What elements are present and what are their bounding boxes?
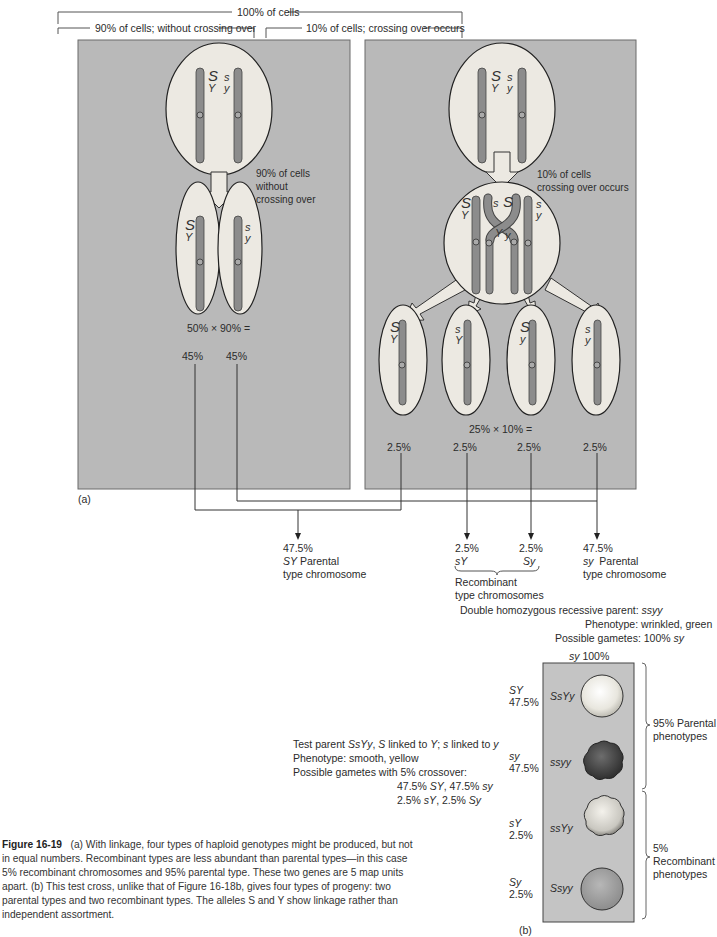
test-parent-line: Test parent SsYy, S linked to Y; s linke… [293,738,499,751]
percent-Sy-crossover: 2.5% [517,441,541,454]
arrow-head-icon [464,533,470,540]
percent-sY-crossover: 2.5% [453,441,477,454]
allele-label: S [503,195,513,209]
progeny-genotype-SsYy: SsYy [550,690,575,703]
allele-label: s Y [455,324,462,346]
recombinant-label: Recombinant type chromosomes [455,576,544,602]
panel-b-label: (b) [519,924,532,937]
progeny-gamete-sy: sy 47.5% [509,750,539,774]
allele-label: S Y [461,196,471,221]
bracket-label-no-crossover: 90% of cells; without crossing over [95,22,256,35]
arrow-head-icon [528,533,534,540]
panel-a-label: (a) [78,493,91,506]
note-no-crossover: 90% of cells without crossing over [256,167,315,206]
allele-label: s y [585,324,591,346]
test-parent-phenotype: Phenotype: smooth, yellow [293,752,419,765]
double-recessive-parent: Double homozygous recessive parent: ssyy [460,604,663,617]
allele-label: S Y [208,69,218,94]
total-sY: 2.5% sY [455,542,479,568]
arrow-head-icon [295,533,301,540]
figure-caption: Figure 16-19 (a) With linkage, four type… [2,838,422,922]
allele-label: s [493,198,499,209]
progeny-gamete-SY: SY 47.5% [509,684,539,708]
allele-label: s y [224,72,230,94]
double-recessive-gametes: Possible gametes: 100% sy [555,632,684,645]
progeny-genotype-ssyy: ssyy [550,756,571,769]
note-crossover: 10% of cells crossing over occurs [537,168,629,194]
arrow-head-icon [594,533,600,540]
allele-label: S Y [390,320,400,345]
percent-SY-crossover: 2.5% [387,441,411,454]
double-recessive-phenotype: Phenotype: wrinkled, green [585,618,712,631]
gamete-cell-sy-right [572,305,620,415]
allele-label: Y [495,228,502,239]
plate-header: sy 100% [569,650,609,663]
progeny-genotype-Ssyy: Ssyy [550,882,573,895]
gamete-cell-SY-left [176,182,220,314]
total-Sy: 2.5% Sy [519,542,543,568]
brace-recombinant [642,791,650,919]
caption-text: (a) With linkage, four types of haploid … [2,839,413,920]
allele-label: S y [520,320,530,345]
progeny-gamete-Sy: Sy 2.5% [509,876,533,900]
seed-smooth-yellow [581,675,623,717]
brace-parental [642,663,650,789]
allele-label: S Y [185,218,195,243]
calculation-crossover: 25% × 10% = [469,423,532,436]
seed-wrinkled-yellow [584,796,624,836]
percent-sy-crossover: 2.5% [583,441,607,454]
allele-label: y [505,230,511,241]
allele-label: s y [536,199,542,221]
figure-number: Figure 16-19 [2,839,62,850]
percent-sy-no-crossover: 45% [226,350,247,363]
test-parent-gametes-1: 47.5% SY, 47.5% sy [397,780,493,793]
percent-SY-no-crossover: 45% [182,350,203,363]
gamete-cell-sY [442,305,490,415]
total-sy: 47.5% sy Parental type chromosome [583,542,666,581]
allele-label: s y [507,72,513,94]
bracket-label-100: 100% of cells [237,6,299,19]
group-parental-label: 95% Parental phenotypes [653,717,716,743]
group-recombinant-label: 5% Recombinant phenotypes [653,842,715,881]
bracket-label-crossover: 10% of cells; crossing over occurs [306,22,465,35]
progeny-gamete-sY: sY 2.5% [509,817,533,841]
total-SY: 47.5% SY Parental type chromosome [283,542,366,581]
gamete-cell-Sy [507,305,555,415]
test-parent-gametes-2: 2.5% sY, 2.5% Sy [397,794,481,807]
gamete-cell-SY-right [379,305,427,415]
calculation-no-crossover: 50% × 90% = [187,322,250,335]
allele-label: s y [245,222,251,244]
seed-smooth-green [581,868,623,910]
parent-cell-left [166,43,272,175]
progeny-genotype-ssYy: ssYy [550,822,573,835]
test-parent-gametes-title: Possible gametes with 5% crossover: [293,766,467,779]
allele-label: S Y [491,69,501,94]
